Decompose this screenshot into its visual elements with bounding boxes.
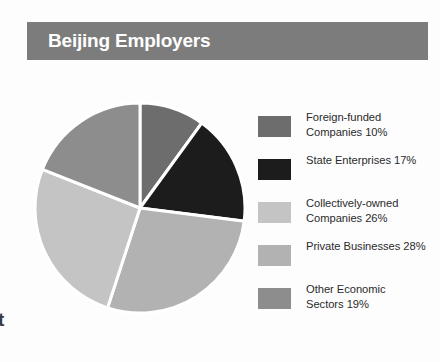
cropped-edge-text: t [0, 309, 5, 333]
legend-item: Foreign-funded Companies 10% [258, 110, 436, 153]
legend-item: State Enterprises 17% [258, 153, 436, 196]
legend-label: Foreign-funded Companies 10% [306, 110, 387, 139]
legend-swatch-state-enterprises [258, 159, 291, 180]
legend-swatch-other-economic [258, 288, 291, 309]
legend-swatch-foreign-funded [258, 116, 291, 137]
chart-legend: Foreign-funded Companies 10% State Enter… [258, 110, 436, 325]
chart-title-banner: Beijing Employers [27, 22, 428, 60]
legend-item: Private Businesses 28% [258, 239, 436, 282]
legend-label: Private Businesses 28% [306, 239, 426, 254]
pie-slice-group [35, 103, 245, 313]
legend-item: Other Economic Sectors 19% [258, 282, 436, 325]
legend-swatch-private-businesses [258, 245, 291, 266]
legend-label: State Enterprises 17% [306, 153, 416, 168]
pie-chart-svg [33, 101, 247, 315]
legend-label: Collectively-owned Companies 26% [306, 196, 398, 225]
pie-chart [33, 101, 247, 315]
chart-figure: Beijing Employers Foreign-funded Compani… [0, 0, 440, 362]
legend-swatch-collectively-owned [258, 202, 291, 223]
page-title: Beijing Employers [48, 29, 210, 53]
legend-item: Collectively-owned Companies 26% [258, 196, 436, 239]
legend-label: Other Economic Sectors 19% [306, 282, 386, 311]
